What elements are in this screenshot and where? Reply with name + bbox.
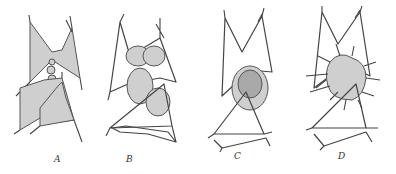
panel-c-drawing <box>208 8 272 152</box>
panel-label-d: D <box>338 151 345 161</box>
panel-label-a: A <box>54 154 61 164</box>
illustration-figure: A B C D <box>0 0 396 174</box>
panel-a-drawing <box>14 15 82 142</box>
panel-label-b: B <box>126 154 133 164</box>
illustration-drawing <box>0 0 396 174</box>
panel-label-c: C <box>234 151 241 161</box>
panel-d-drawing <box>306 6 380 150</box>
panel-b-drawing <box>106 14 176 142</box>
